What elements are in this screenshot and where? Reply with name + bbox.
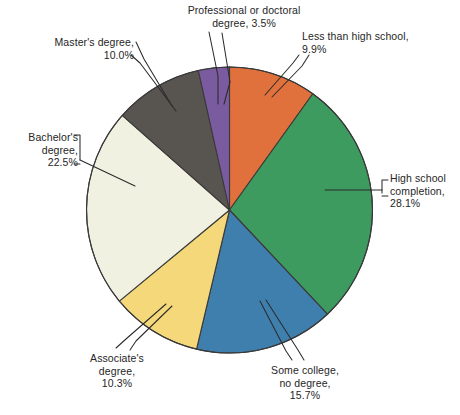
slice-label-masters-degree: Master's degree, 10.0%: [16, 36, 134, 61]
slice-label-some-college-no-degree: Some college, no degree, 15.7%: [256, 364, 354, 402]
slice-label-associates-degree: Associate's degree, 10.3%: [72, 352, 162, 390]
slice-label-professional-or-doctoral-degree: Professional or doctoral degree, 3.5%: [178, 4, 310, 29]
slice-label-high-school-completion: High school completion, 28.1%: [390, 172, 460, 210]
slice-label-less-than-high-school: Less than high school, 9.9%: [302, 30, 432, 55]
leader-line-highschool-bracket-top: [382, 180, 388, 193]
slice-label-bachelors-degree: Bachelor's degree, 22.5%: [6, 131, 78, 169]
pie-chart-figure: Professional or doctoral degree, 3.5% Le…: [0, 0, 460, 415]
pie-slices-group: [86, 67, 372, 353]
